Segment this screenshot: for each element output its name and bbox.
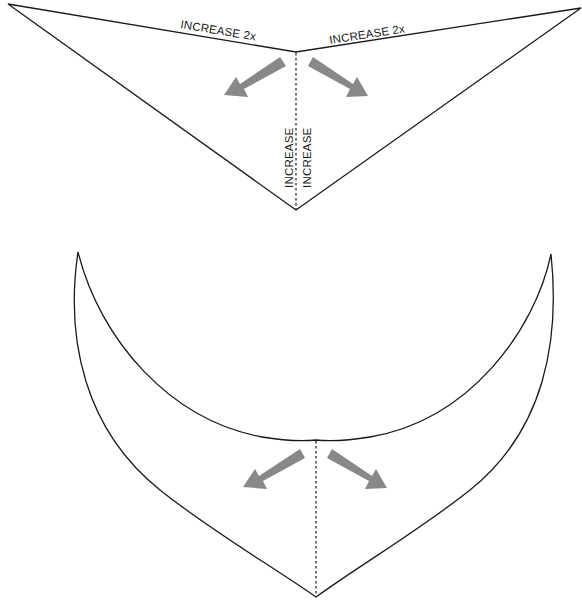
top-pattern-piece: INCREASE 2x INCREASE 2x INCREASE INCREAS…	[8, 4, 581, 210]
pattern-diagram: INCREASE 2x INCREASE 2x INCREASE INCREAS…	[0, 0, 582, 611]
bottom-piece-outline	[74, 252, 553, 597]
top-fold-right-label: INCREASE	[301, 127, 313, 188]
top-left-arrow-icon	[224, 57, 286, 97]
bottom-right-arrow-icon	[327, 449, 387, 489]
bottom-pattern-piece	[74, 252, 553, 597]
top-right-arrow-icon	[308, 57, 368, 97]
bottom-left-arrow-icon	[243, 449, 305, 489]
top-right-edge-label: INCREASE 2x	[328, 22, 405, 46]
top-fold-left-label: INCREASE	[283, 127, 295, 188]
